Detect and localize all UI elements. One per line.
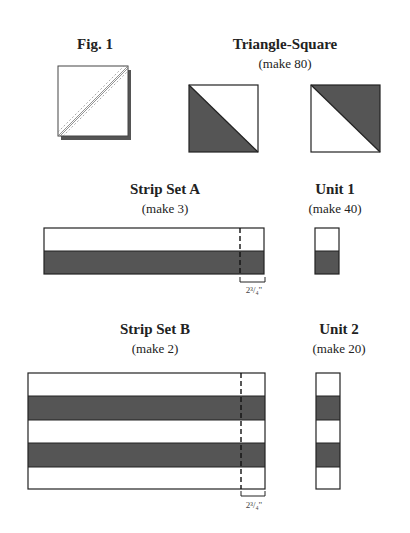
triangle-square-left [189, 85, 259, 153]
triangle-square-quantity: (make 80) [220, 56, 350, 72]
strip-set-b-diagram [28, 373, 270, 491]
strip-set-a-cut-bracket [239, 277, 269, 285]
unit1-quantity: (make 40) [290, 201, 380, 217]
unit2-title: Unit 2 [294, 321, 384, 338]
unit2-diagram [316, 373, 342, 491]
strip-set-b-title: Strip Set B [90, 321, 220, 338]
fig1-label: Fig. 1 [60, 36, 130, 53]
strip-set-b-quantity: (make 2) [90, 341, 220, 357]
unit1-title: Unit 1 [290, 181, 380, 198]
strip-set-b-cut-measurement: 2³/₄" [240, 500, 268, 510]
triangle-square-right [311, 85, 381, 153]
strip-set-a-quantity: (make 3) [100, 201, 230, 217]
strip-set-a-diagram [44, 228, 269, 276]
unit2-quantity: (make 20) [294, 341, 384, 357]
triangle-square-title: Triangle-Square [220, 36, 350, 53]
fig1-diagram [58, 66, 134, 142]
strip-set-a-cut-measurement: 2³/₄" [240, 285, 268, 295]
unit1-diagram [315, 228, 341, 276]
strip-set-a-title: Strip Set A [100, 181, 230, 198]
strip-set-b-cut-bracket [241, 491, 271, 499]
